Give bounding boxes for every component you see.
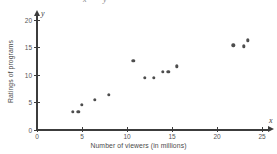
x-tick-label: 15: [168, 133, 175, 140]
y-tick-mark: [34, 130, 40, 131]
data-point: [152, 76, 155, 79]
x-tick-mark: [172, 127, 173, 132]
scatter-plot-figure: x y x y 0510152025 05101520 Ratings of p…: [0, 0, 277, 154]
y-axis-arrow-icon: [34, 10, 40, 16]
y-tick-label: 15: [20, 44, 32, 51]
y-tick-mark: [34, 75, 40, 76]
data-point: [80, 103, 83, 106]
data-point: [107, 93, 110, 96]
y-axis-variable-label: y: [41, 9, 45, 18]
x-tick-label: 0: [35, 133, 39, 140]
x-tick-label: 10: [123, 133, 130, 140]
data-point: [77, 110, 80, 113]
y-tick-mark: [34, 20, 40, 21]
y-axis-title: Ratings of programs: [7, 33, 14, 111]
y-tick-label: 0: [20, 126, 32, 133]
data-point: [242, 45, 245, 48]
x-tick-mark: [217, 127, 218, 132]
y-tick-label: 20: [20, 16, 32, 23]
y-tick-mark: [34, 47, 40, 48]
data-point: [231, 44, 234, 47]
x-tick-mark: [262, 127, 263, 132]
x-axis-title: Number of viewers (in millions): [0, 142, 277, 149]
plot-area: x y 0510152025 05101520 Ratings of progr…: [0, 0, 277, 154]
data-point: [161, 70, 164, 73]
data-point: [71, 110, 74, 113]
y-tick-label: 10: [20, 71, 32, 78]
x-tick-label: 5: [80, 133, 84, 140]
y-tick-mark: [34, 102, 40, 103]
x-tick-mark: [82, 127, 83, 132]
y-axis-line: [36, 15, 38, 131]
y-tick-label: 5: [20, 99, 32, 106]
data-point: [175, 65, 178, 68]
x-axis-arrow-icon: [268, 126, 274, 132]
data-point: [132, 59, 135, 62]
x-axis-line: [37, 129, 270, 131]
data-point: [143, 76, 146, 79]
x-tick-mark: [127, 127, 128, 132]
x-tick-label: 25: [258, 133, 265, 140]
x-tick-label: 20: [213, 133, 220, 140]
x-axis-variable-label: x: [269, 116, 273, 125]
data-point: [93, 98, 96, 101]
data-point: [246, 39, 249, 42]
data-point: [167, 70, 170, 73]
